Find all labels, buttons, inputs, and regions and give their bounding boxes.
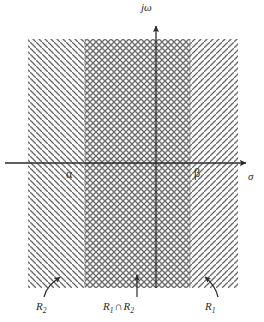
region-label-R2: R2 <box>36 301 46 315</box>
alpha-boundary-label: α <box>66 168 72 180</box>
region-label-R1-intersect-R2: R1∩R2 <box>103 301 134 315</box>
sigma-axis-label: σ <box>248 171 253 182</box>
region-label-R2-sub: 2 <box>43 306 47 315</box>
region-label-R2-base: R <box>36 300 43 312</box>
figure-container: jω σ α β R2 R1∩R2 R1 <box>0 0 264 322</box>
intersection-operator-icon: ∩ <box>113 300 123 312</box>
region-label-R1: R1 <box>205 301 215 315</box>
intersection-sub-2: 2 <box>130 306 134 315</box>
region-label-R1-base: R <box>205 300 212 312</box>
s-plane-diagram <box>0 0 264 322</box>
intersection-base-1: R <box>103 300 110 312</box>
jomega-axis-label: jω <box>141 2 152 13</box>
beta-boundary-label: β <box>194 167 200 179</box>
region-label-R1-sub: 1 <box>212 306 216 315</box>
